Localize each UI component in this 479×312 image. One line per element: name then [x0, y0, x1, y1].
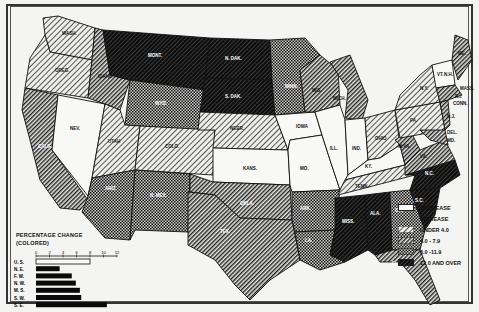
- svg-text:LA.: LA.: [305, 238, 312, 243]
- svg-text:MISS.: MISS.: [342, 219, 354, 224]
- chart-title: PERCENTAGE CHANGE: [16, 232, 83, 238]
- bar: [36, 288, 80, 293]
- svg-text:OREG.: OREG.: [55, 68, 70, 73]
- svg-text:W.VA.: W.VA.: [398, 144, 410, 149]
- svg-text:CALIF.: CALIF.: [38, 144, 52, 149]
- legend-4-to-7-9: 4.0 - 7.9: [398, 236, 440, 245]
- svg-text:WASH.: WASH.: [62, 31, 77, 36]
- swatch-under-4: [398, 226, 414, 233]
- svg-text:S. DAK.: S. DAK.: [225, 94, 242, 99]
- svg-text:UTAH: UTAH: [108, 139, 120, 144]
- legend-under-4: UNDER 4.0: [398, 225, 449, 234]
- svg-text:N.C.: N.C.: [425, 171, 434, 176]
- svg-text:MASS.: MASS.: [460, 86, 474, 91]
- svg-text:ARK.: ARK.: [300, 206, 311, 211]
- svg-text:VA.: VA.: [420, 154, 427, 159]
- svg-text:ME.: ME.: [458, 51, 466, 56]
- svg-text:KY.: KY.: [365, 164, 372, 169]
- swatch-4-to-7-9: [398, 237, 414, 244]
- svg-text:10: 10: [101, 250, 106, 255]
- svg-text:0: 0: [35, 250, 38, 255]
- svg-text:ILL.: ILL.: [330, 146, 338, 151]
- bar-label: U. S.: [14, 260, 24, 265]
- legend-12-and-over: 12.0 AND OVER: [398, 258, 461, 267]
- svg-text:MO.: MO.: [300, 166, 309, 171]
- svg-text:NEBR.: NEBR.: [230, 126, 244, 131]
- svg-text:2: 2: [48, 250, 51, 255]
- svg-text:IND.: IND.: [352, 146, 361, 151]
- bar-chart-plot: 024681012 U. S.N. E.F. W.N. W.M. S.S. W.…: [10, 248, 140, 312]
- state-nmex: [130, 170, 190, 240]
- state-colo: [135, 126, 215, 175]
- bar: [36, 295, 81, 300]
- svg-text:R.I.: R.I.: [455, 94, 462, 99]
- state-maine: [452, 35, 472, 80]
- svg-text:N.J.: N.J.: [447, 114, 455, 119]
- svg-text:KANS.: KANS.: [243, 166, 257, 171]
- svg-text:12: 12: [115, 250, 120, 255]
- legend-increase-header: INCREASE: [420, 214, 448, 223]
- svg-text:N. DAK.: N. DAK.: [225, 56, 242, 61]
- svg-text:6: 6: [75, 250, 78, 255]
- svg-text:VT.: VT.: [437, 72, 444, 77]
- percentage-change-bar-chart: PERCENTAGE CHANGE (COLORED) 024681012 U.…: [10, 236, 130, 302]
- state-miss: [330, 195, 368, 262]
- svg-text:ALA.: ALA.: [370, 211, 381, 216]
- svg-text:OKLA.: OKLA.: [240, 201, 254, 206]
- bar-label: N. E.: [14, 267, 24, 272]
- bar-label: M. S.: [14, 288, 25, 293]
- swatch-8-to-11-9: [398, 248, 414, 255]
- svg-text:MD.: MD.: [447, 138, 455, 143]
- bar: [36, 281, 76, 286]
- svg-text:N.H.: N.H.: [444, 72, 453, 77]
- bar: [36, 302, 107, 307]
- chart-subtitle: (COLORED): [16, 240, 49, 246]
- bars: U. S.N. E.F. W.N. W.M. S.S. W.S. E.: [14, 259, 107, 308]
- svg-text:TEX.: TEX.: [220, 229, 230, 234]
- state-ark: [292, 190, 340, 232]
- svg-text:MICH.: MICH.: [333, 96, 346, 101]
- svg-text:MONT.: MONT.: [148, 53, 162, 58]
- state-del-md: [420, 130, 448, 145]
- svg-text:WYO.: WYO.: [155, 101, 167, 106]
- legend-8-to-11-9: 8.0 -11.9: [398, 247, 441, 256]
- bar-label: S. W.: [14, 296, 25, 301]
- bar: [36, 273, 72, 278]
- bar-label: S. E.: [14, 303, 24, 308]
- bar-label: F. W.: [14, 274, 24, 279]
- svg-text:IOWA: IOWA: [296, 124, 309, 129]
- svg-text:NEV.: NEV.: [70, 126, 80, 131]
- svg-text:WIS.: WIS.: [312, 88, 322, 93]
- svg-text:8: 8: [89, 250, 92, 255]
- legend-decrease: DECREASE: [398, 203, 451, 212]
- svg-text:N. MEX.: N. MEX.: [150, 193, 167, 198]
- svg-text:DEL.: DEL.: [447, 130, 457, 135]
- svg-text:MINN.: MINN.: [285, 84, 298, 89]
- bar: [36, 259, 90, 264]
- svg-text:OHIO: OHIO: [375, 136, 387, 141]
- svg-text:CONN.: CONN.: [453, 101, 468, 106]
- swatch-decrease: [398, 204, 414, 211]
- svg-text:TENN.: TENN.: [355, 184, 369, 189]
- swatch-12-and-over: [398, 259, 414, 266]
- svg-text:4: 4: [62, 250, 65, 255]
- svg-text:N.Y.: N.Y.: [420, 86, 428, 91]
- bar-label: N. W.: [14, 281, 25, 286]
- svg-text:PA.: PA.: [410, 118, 417, 123]
- svg-text:ARIZ.: ARIZ.: [105, 186, 117, 191]
- x-axis: 024681012: [35, 250, 120, 258]
- svg-text:COLO.: COLO.: [165, 144, 179, 149]
- svg-text:IDAHO: IDAHO: [98, 74, 113, 79]
- state-ala: [365, 192, 392, 255]
- bar: [36, 266, 60, 271]
